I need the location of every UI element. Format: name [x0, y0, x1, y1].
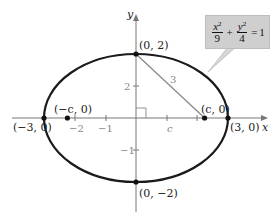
plus-sign: + [227, 26, 233, 38]
x-tick-label-neg1: −1 [98, 123, 113, 134]
point-focus-right [202, 115, 207, 120]
hypotenuse-label: 3 [170, 74, 176, 85]
right-angle-marker-icon [136, 108, 146, 118]
y-tick-label-neg1: −1 [120, 145, 135, 156]
label-top-point: (0, 2) [139, 39, 169, 52]
callout-pointer [208, 47, 236, 72]
fraction-y: y2 4 [237, 21, 247, 44]
y-tick-label-2: 2 [124, 81, 130, 92]
label-focus-left: (−c, 0) [54, 103, 92, 116]
label-right-vertex: (3, 0) [230, 121, 260, 134]
fraction-x: x2 9 [212, 21, 222, 44]
point-bottom [133, 179, 138, 184]
term1-den: 9 [215, 33, 221, 44]
term2-exp: 2 [243, 20, 247, 28]
point-left-vertex [41, 115, 46, 120]
rhs-value: 1 [259, 26, 265, 38]
x-tick-label-neg2: −2 [69, 123, 84, 134]
x-axis-label: x [262, 121, 269, 134]
label-bottom-point: (0, −2) [139, 187, 178, 200]
point-right-vertex [225, 115, 230, 120]
point-focus-left [65, 115, 70, 120]
term1-exp: 2 [218, 20, 222, 28]
y-axis-label: y [126, 8, 134, 21]
equals-sign: = [251, 26, 257, 38]
base-label: c [167, 123, 173, 134]
y-axis-arrow-icon [133, 14, 139, 21]
label-left-vertex: (−3, 0) [13, 121, 52, 134]
equation-callout: x2 9 + y2 4 = 1 [205, 15, 270, 49]
label-focus-right: (c, 0) [201, 103, 230, 116]
term2-den: 4 [239, 33, 245, 44]
point-top [133, 51, 138, 56]
